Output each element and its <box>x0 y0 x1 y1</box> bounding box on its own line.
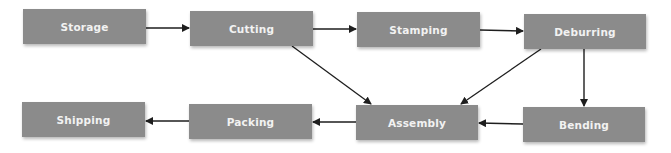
node-stamping: Stamping <box>357 12 480 47</box>
process-flow-diagram: Storage Cutting Stamping Deburring Bendi… <box>0 0 671 153</box>
edge-stamping-to-deburring <box>480 30 523 31</box>
node-label: Storage <box>60 21 108 33</box>
node-deburring: Deburring <box>524 14 646 49</box>
node-cutting: Cutting <box>190 11 313 46</box>
node-packing: Packing <box>189 104 312 139</box>
node-label: Bending <box>559 119 609 131</box>
node-shipping: Shipping <box>22 102 145 137</box>
node-label: Cutting <box>229 23 274 35</box>
node-assembly: Assembly <box>356 105 478 140</box>
node-label: Stamping <box>389 24 447 36</box>
node-label: Shipping <box>57 114 111 126</box>
node-bending: Bending <box>523 107 645 142</box>
edge-deburring-to-assembly <box>461 49 541 104</box>
node-label: Packing <box>227 116 275 128</box>
node-label: Deburring <box>554 26 616 38</box>
edge-bending-to-assembly <box>479 123 523 124</box>
node-label: Assembly <box>388 117 446 129</box>
node-storage: Storage <box>23 9 146 44</box>
edge-cutting-to-assembly <box>292 46 371 104</box>
